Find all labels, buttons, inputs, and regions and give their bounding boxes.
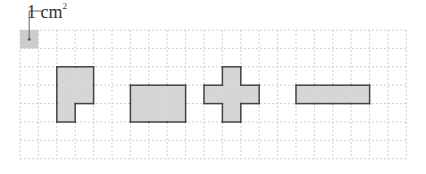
unit-label-text: 1 cm (27, 2, 63, 22)
unit-label: 1 cm2 (27, 2, 67, 23)
area-diagram: 1 cm2 (0, 0, 426, 174)
rectangle-shape (130, 85, 186, 122)
grid-figure (0, 0, 426, 174)
unit-superscript: 2 (63, 1, 68, 11)
l-shape-shape (57, 67, 94, 123)
cross-shape (204, 67, 260, 123)
bar-shape (296, 85, 370, 104)
